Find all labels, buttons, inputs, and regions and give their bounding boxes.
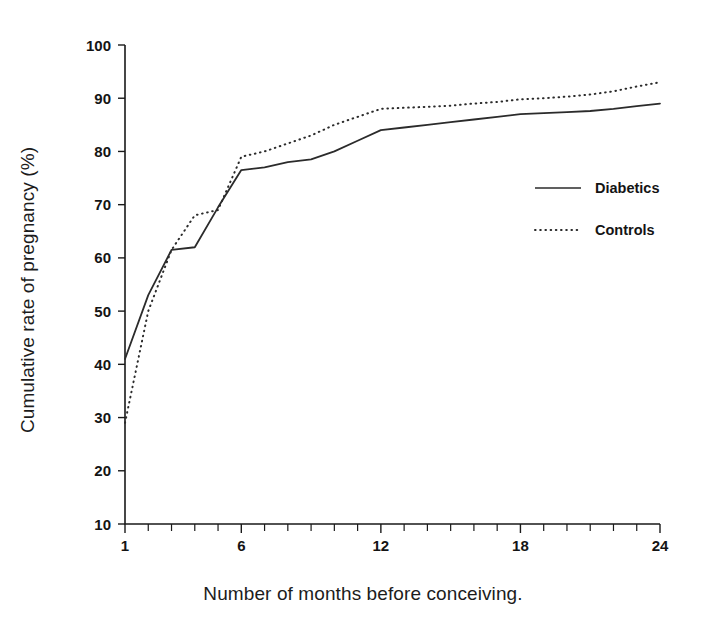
series-line-controls <box>125 82 660 423</box>
axis-spines <box>125 45 660 524</box>
y-axis-ticks: 102030405060708090100 <box>86 37 125 533</box>
x-tick-label: 24 <box>652 537 669 554</box>
chart-legend: DiabeticsControls <box>535 180 659 238</box>
data-series <box>125 82 660 423</box>
x-tick-label: 18 <box>512 537 529 554</box>
chart-plot-area: 102030405060708090100 16121824 Diabetics… <box>0 0 702 636</box>
x-tick-label: 6 <box>237 537 245 554</box>
x-tick-label: 12 <box>373 537 390 554</box>
series-line-diabetics <box>125 104 660 359</box>
x-tick-label: 1 <box>121 537 129 554</box>
y-tick-label: 50 <box>94 303 111 320</box>
y-tick-label: 60 <box>94 249 111 266</box>
y-tick-label: 70 <box>94 196 111 213</box>
y-tick-label: 40 <box>94 356 111 373</box>
y-tick-label: 10 <box>94 516 111 533</box>
x-axis-title-container: Number of months before conceiving. <box>0 583 702 605</box>
chart-figure: Cumulative rate of pregnancy (%) 1020304… <box>0 0 702 636</box>
x-axis-title: Number of months before conceiving. <box>179 583 522 604</box>
y-tick-label: 90 <box>94 90 111 107</box>
axes <box>125 45 660 524</box>
x-axis-ticks: 16121824 <box>121 524 669 554</box>
y-tick-label: 30 <box>94 409 111 426</box>
legend-label-controls: Controls <box>595 222 655 238</box>
y-tick-label: 100 <box>86 37 111 54</box>
y-tick-label: 80 <box>94 143 111 160</box>
legend-label-diabetics: Diabetics <box>595 180 659 196</box>
y-tick-label: 20 <box>94 462 111 479</box>
